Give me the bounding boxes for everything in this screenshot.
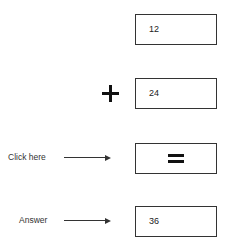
result-value: 36 [149, 216, 159, 226]
plus-icon [102, 85, 119, 102]
equals-icon [168, 154, 184, 164]
second-operand-value: 24 [149, 88, 159, 98]
second-operand-field[interactable]: 24 [135, 78, 217, 109]
arrow-right-icon [64, 155, 111, 161]
click-here-label: Click here [8, 152, 46, 162]
answer-label: Answer [19, 215, 47, 225]
first-operand-value: 12 [149, 24, 159, 34]
arrow-right-icon [64, 218, 111, 224]
equals-button[interactable] [135, 143, 217, 174]
first-operand-field[interactable]: 12 [135, 14, 217, 45]
result-field: 36 [135, 206, 217, 237]
